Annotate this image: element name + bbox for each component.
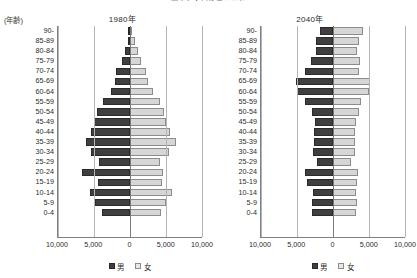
axis-center-line (130, 26, 131, 237)
x-tick-label: 10,000 (46, 240, 68, 249)
bar-female (333, 78, 370, 86)
gridline (261, 26, 262, 237)
chart-title-2040: 2040年 (207, 13, 417, 24)
bar-female (130, 78, 148, 86)
bar-female (333, 158, 351, 166)
bar-female (130, 158, 160, 166)
age-group-label: 30-34 (217, 147, 259, 157)
legend-1980: 男 女 (57, 260, 202, 272)
bar-male (102, 209, 130, 217)
population-pyramid-figure: 図2-1 人口ピラミッド (年齢) 1980年 90-85-8980-8475-… (0, 0, 417, 278)
age-group-label: 80-84 (14, 46, 56, 56)
age-group-label: 40-44 (217, 127, 259, 137)
x-tick-label: 5,000 (157, 240, 175, 249)
age-group-label: 85-89 (217, 36, 259, 46)
x-tick-label: 10,000 (394, 240, 416, 249)
bar-male (305, 68, 333, 76)
bar-male (82, 169, 130, 177)
age-group-label: 45-49 (14, 117, 56, 127)
age-group-label: 40-44 (14, 127, 56, 137)
bar-female (333, 37, 359, 45)
x-tick-label: 0 (128, 240, 132, 249)
bar-female (130, 169, 163, 177)
bar-male (116, 68, 130, 76)
gridline (58, 26, 59, 237)
age-group-label: 35-39 (14, 137, 56, 147)
age-group-label: 85-89 (14, 36, 56, 46)
age-group-label: 80-84 (217, 46, 259, 56)
bar-male (91, 128, 130, 136)
bar-female (333, 169, 358, 177)
bar-male (90, 189, 130, 197)
bar-female (333, 138, 355, 146)
age-group-label: 50-54 (14, 107, 56, 117)
age-group-label: 25-29 (14, 157, 56, 167)
bar-female (333, 68, 359, 76)
plot-area-1980 (57, 26, 202, 238)
age-group-label: 5-9 (14, 198, 56, 208)
bar-male (315, 118, 333, 126)
bar-male (312, 199, 333, 207)
age-group-label: 55-59 (217, 97, 259, 107)
x-tick-label: 10,000 (249, 240, 271, 249)
bar-male (99, 158, 130, 166)
bar-female (333, 57, 360, 65)
bar-female (333, 199, 357, 207)
age-group-label: 90- (217, 26, 259, 36)
female-swatch-icon (135, 263, 141, 269)
age-group-label: 90- (14, 26, 56, 36)
chart-panel-1980: 1980年 90-85-8980-8475-7970-7465-6960-645… (0, 0, 207, 278)
age-group-label: 25-29 (217, 157, 259, 167)
bar-female (130, 179, 162, 187)
legend-label-male: 男 (117, 261, 124, 272)
bar-male (311, 57, 333, 65)
age-label-column-1980: 90-85-8980-8475-7970-7465-6960-6455-5950… (14, 26, 56, 238)
male-swatch-icon (312, 263, 318, 269)
gridline (369, 26, 370, 237)
bar-male (115, 78, 130, 86)
age-group-label: 35-39 (217, 137, 259, 147)
age-group-label: 15-19 (14, 177, 56, 187)
legend-label-female: 女 (144, 261, 151, 272)
age-group-label: 20-24 (14, 167, 56, 177)
bar-male (313, 189, 333, 197)
bar-female (333, 209, 356, 217)
gridline (297, 26, 298, 237)
bar-female (333, 108, 359, 116)
bar-male (103, 98, 130, 106)
bar-male (305, 98, 333, 106)
bar-female (130, 118, 166, 126)
legend-label-male: 男 (320, 261, 327, 272)
age-group-label: 45-49 (217, 117, 259, 127)
age-group-label: 55-59 (14, 97, 56, 107)
bar-female (130, 199, 166, 207)
bar-female (130, 138, 176, 146)
bar-male (314, 128, 333, 136)
age-group-label: 75-79 (217, 56, 259, 66)
gridline (405, 26, 406, 237)
age-group-label: 10-14 (14, 188, 56, 198)
bar-male (312, 108, 333, 116)
male-swatch-icon (109, 263, 115, 269)
chart-panel-2040: 2040年 90-85-8980-8475-7970-7465-6960-645… (207, 0, 417, 278)
gridline (94, 26, 95, 237)
gridline (166, 26, 167, 237)
x-tick-label: 0 (331, 240, 335, 249)
age-group-label: 30-34 (14, 147, 56, 157)
bar-female (130, 68, 146, 76)
bar-male (91, 148, 130, 156)
age-group-label: 20-24 (217, 167, 259, 177)
x-axis-ticks-1980: 10,0005,00005,00010,000 (57, 240, 202, 252)
legend-item-male: 男 (109, 261, 125, 272)
bar-male (111, 88, 130, 96)
bar-female (130, 88, 153, 96)
x-tick-label: 5,000 (360, 240, 378, 249)
age-group-label: 15-19 (217, 177, 259, 187)
bar-male (316, 47, 333, 55)
bar-male (312, 209, 333, 217)
age-group-label: 75-79 (14, 56, 56, 66)
bar-female (333, 179, 357, 187)
bar-male (98, 179, 130, 187)
bar-male (316, 37, 333, 45)
bar-male (314, 138, 333, 146)
